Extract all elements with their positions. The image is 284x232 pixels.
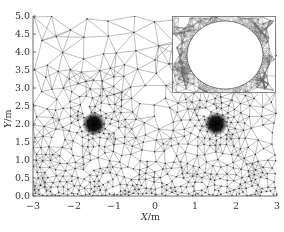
x-tick-label: 0 bbox=[145, 201, 165, 211]
y-tick-label: 3.5 bbox=[0, 65, 30, 75]
y-tick-label: 5.0 bbox=[0, 11, 30, 21]
x-tick-label: −1 bbox=[104, 201, 124, 211]
y-tick-label: 0.5 bbox=[0, 173, 30, 183]
mesh-figure: 0.0 0.5 1.0 1.5 2.0 2.5 3.0 3.5 4.0 4.5 … bbox=[0, 0, 284, 232]
y-tick-label: 1.0 bbox=[0, 155, 30, 165]
x-tick-label: 2 bbox=[226, 201, 246, 211]
x-tick-label: −3 bbox=[23, 201, 43, 211]
y-tick-label: 4.0 bbox=[0, 47, 30, 57]
y-tick-label: 1.5 bbox=[0, 137, 30, 147]
x-tick-label: 3 bbox=[267, 201, 284, 211]
mesh-plot-canvas bbox=[0, 0, 284, 232]
x-tick-label: 1 bbox=[185, 201, 205, 211]
x-tick-label: −2 bbox=[64, 201, 84, 211]
y-tick-label: 3.0 bbox=[0, 83, 30, 93]
y-tick-label: 4.5 bbox=[0, 29, 30, 39]
x-axis-label: X/m bbox=[141, 211, 160, 222]
y-axis-label: Y/m bbox=[2, 110, 13, 129]
